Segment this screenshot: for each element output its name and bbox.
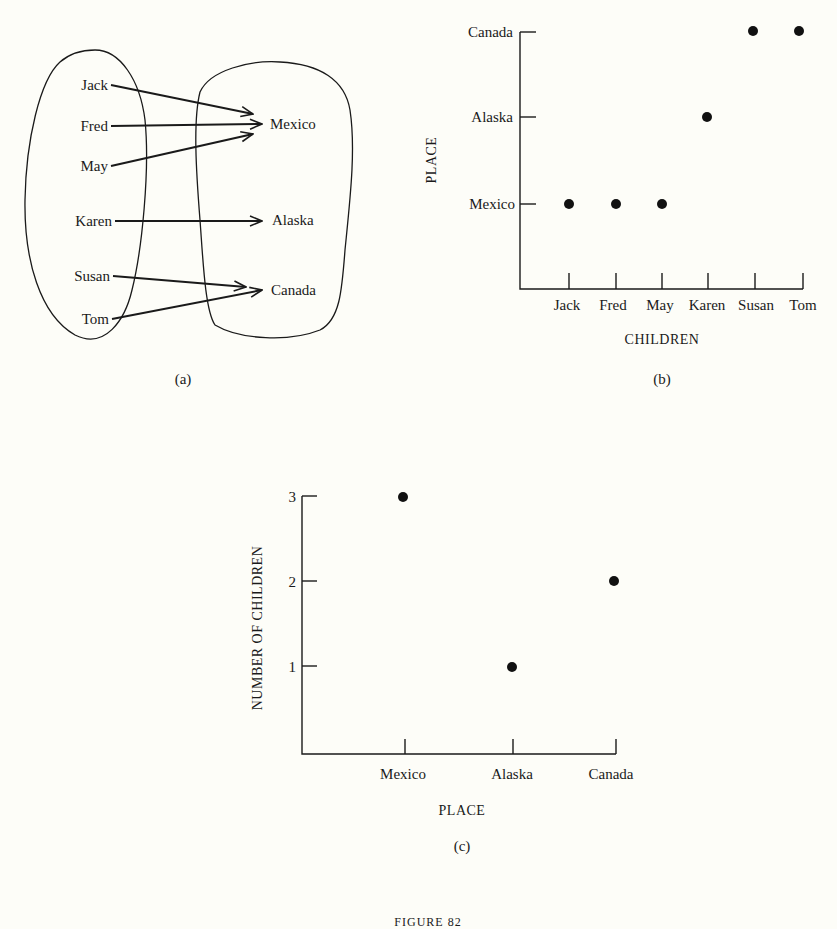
arrow-may-mexico [111, 134, 253, 166]
panel-b-ytick-mexico: Mexico [469, 196, 515, 212]
panel-b-xtick-fred: Fred [599, 297, 627, 313]
panel-b-xtick-susan: Susan [738, 297, 774, 313]
domain-set-outline [25, 50, 147, 339]
codomain-label-mexico: Mexico [270, 116, 316, 132]
panel-a-mapping-diagram: Jack Fred May Karen Susan Tom Mexico Ala… [25, 50, 353, 388]
panel-b-ytick-canada: Canada [468, 24, 513, 40]
panel-c-caption: (c) [454, 838, 471, 855]
panel-a-caption: (a) [175, 371, 192, 388]
panel-b-points [564, 26, 804, 209]
domain-label-fred: Fred [81, 118, 109, 134]
panel-b-xtick-jack: Jack [554, 297, 581, 313]
domain-label-jack: Jack [81, 77, 108, 93]
figure-canvas: Jack Fred May Karen Susan Tom Mexico Ala… [0, 0, 837, 929]
panel-c-ytick-3: 3 [289, 489, 297, 505]
panel-c-xlabel: PLACE [439, 803, 486, 818]
point-may [657, 199, 667, 209]
panel-b-xtick-karen: Karen [689, 297, 726, 313]
panel-b-caption: (b) [653, 371, 671, 388]
panel-c-ytick-1: 1 [289, 659, 297, 675]
panel-c-ylabel: NUMBER OF CHILDREN [250, 546, 265, 711]
panel-c-xtick-canada: Canada [589, 766, 634, 782]
point-alaska-1 [507, 662, 517, 672]
arrow-fred-mexico [111, 124, 262, 126]
domain-label-susan: Susan [74, 268, 110, 284]
domain-label-karen: Karen [75, 213, 112, 229]
figure-title: FIGURE 82 [394, 915, 461, 929]
panel-c-points [398, 492, 619, 672]
point-tom [794, 26, 804, 36]
panel-b-axes [520, 32, 803, 289]
panel-c-xtick-alaska: Alaska [491, 766, 533, 782]
domain-label-tom: Tom [82, 311, 110, 327]
arrow-jack-mexico [111, 85, 253, 114]
panel-b-scatter-chart: Canada Alaska Mexico Jack Fred May Karen… [424, 24, 817, 388]
codomain-label-canada: Canada [271, 282, 316, 298]
point-jack [564, 199, 574, 209]
codomain-label-alaska: Alaska [272, 212, 314, 228]
panel-b-ylabel: PLACE [424, 137, 439, 184]
panel-b-xtick-tom: Tom [789, 297, 817, 313]
point-karen [702, 112, 712, 122]
panel-c-axes [302, 496, 616, 754]
point-mexico-3 [398, 492, 408, 502]
arrow-tom-canada [112, 290, 262, 319]
panel-c-scatter-chart: 3 2 1 Mexico Alaska Canada PLACE NUMBER … [250, 489, 634, 855]
panel-b-ytick-alaska: Alaska [471, 109, 513, 125]
point-canada-2 [609, 576, 619, 586]
panel-b-xlabel: CHILDREN [625, 332, 700, 347]
panel-b-xtick-may: May [646, 297, 674, 313]
domain-label-may: May [81, 158, 109, 174]
panel-c-ytick-2: 2 [289, 574, 297, 590]
point-susan [748, 26, 758, 36]
panel-c-xtick-mexico: Mexico [380, 766, 426, 782]
point-fred [611, 199, 621, 209]
